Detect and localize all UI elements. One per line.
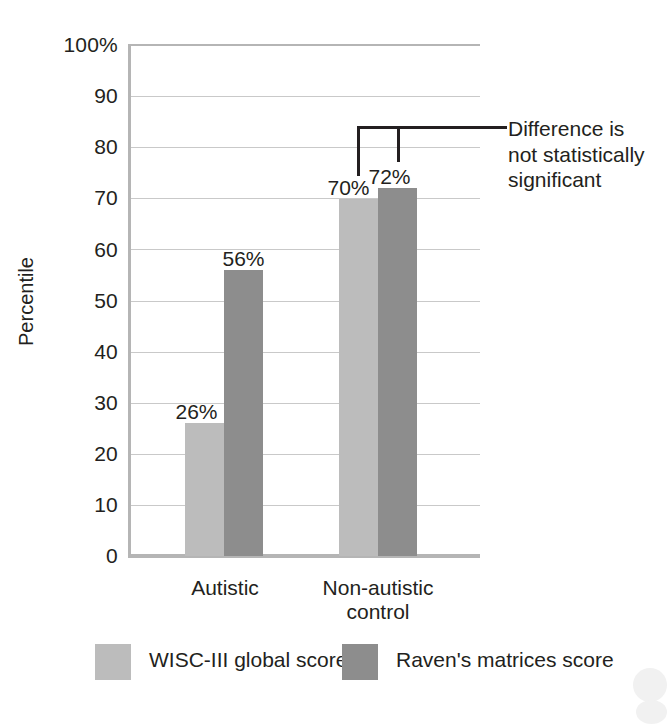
plot-area — [128, 45, 480, 556]
watermark-blob — [636, 700, 667, 724]
y-tick-20: 20 — [8, 442, 118, 466]
bar-value-control-raven: 72% — [348, 165, 431, 189]
y-tick-100: 100% — [8, 33, 118, 57]
significance-bracket-tick-right — [397, 126, 400, 162]
y-axis-title: Percentile — [15, 232, 38, 372]
legend-label-raven: Raven's matrices score — [396, 648, 614, 672]
bar-control-wisc[interactable] — [339, 199, 378, 556]
bar-autistic-wisc[interactable] — [185, 423, 224, 556]
y-tick-0: 0 — [8, 544, 118, 568]
y-tick-10: 10 — [8, 493, 118, 517]
category-label-autistic: Autistic — [140, 576, 310, 600]
y-tick-80: 80 — [8, 135, 118, 159]
legend-swatch-icon — [342, 644, 378, 680]
bar-value-autistic-raven: 56% — [202, 247, 285, 271]
category-label-control: Non-autistic control — [293, 576, 463, 623]
significance-bracket-horizontal — [357, 126, 507, 129]
bar-control-raven[interactable] — [378, 188, 417, 556]
legend: WISC-III global score Raven's matrices s… — [0, 641, 667, 689]
significance-bracket-tick-left — [357, 126, 360, 176]
y-tick-30: 30 — [8, 391, 118, 415]
legend-swatch-icon — [95, 644, 131, 680]
significance-annotation: Difference is not statistically signific… — [508, 116, 667, 193]
y-tick-70: 70 — [8, 186, 118, 210]
bar-value-autistic-wisc: 26% — [155, 400, 238, 424]
legend-label-wisc: WISC-III global score — [149, 648, 347, 672]
y-tick-90: 90 — [8, 84, 118, 108]
